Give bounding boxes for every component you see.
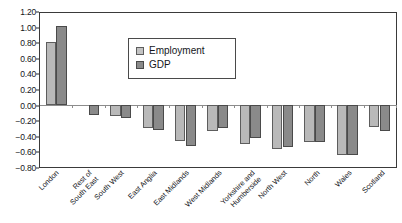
x-tick-mark — [396, 105, 397, 108]
bar-group — [137, 13, 169, 167]
bar-group — [299, 13, 331, 167]
bar-gdp — [347, 105, 357, 155]
y-tick-label: −0.40 — [2, 133, 36, 142]
bar-gdp — [186, 105, 196, 146]
bar-employment — [240, 105, 250, 144]
y-tick-label: −0.20 — [2, 117, 36, 126]
bar-gdp — [218, 105, 228, 128]
bar-gdp — [56, 26, 66, 105]
bar-employment — [304, 105, 314, 141]
bar-group — [40, 13, 72, 167]
y-tick-label: 0.60 — [2, 55, 36, 64]
bar-employment — [337, 105, 347, 154]
bar-group — [72, 13, 104, 167]
bar-employment — [272, 105, 282, 148]
x-tick-label: North — [303, 169, 322, 188]
legend-item: GDP — [136, 58, 228, 72]
bar-gdp — [121, 105, 131, 118]
bar-group — [169, 13, 201, 167]
plot-area — [39, 12, 397, 168]
x-tick-label: Scotland — [360, 169, 386, 195]
y-tick-label: 1.20 — [2, 8, 36, 17]
bar-group — [364, 13, 396, 167]
bar-gdp — [153, 105, 163, 130]
y-tick-label: −0.80 — [2, 164, 36, 173]
bar-employment — [369, 105, 379, 127]
x-axis: LondonRest ofSouth EastSouth WestEast An… — [39, 169, 397, 223]
y-axis: 1.201.000.800.600.400.200.00−0.20−0.40−0… — [0, 0, 36, 223]
bar-gdp — [315, 105, 325, 141]
x-tick-label: East Anglia — [127, 169, 159, 201]
bar-employment — [207, 105, 217, 130]
legend-swatch-employment-icon — [136, 47, 144, 55]
y-tick-label: 0.80 — [2, 39, 36, 48]
x-tick-label: Wales — [334, 169, 354, 189]
y-tick-label: 0.20 — [2, 86, 36, 95]
x-tick-label: Rest ofSouth East — [62, 169, 100, 207]
x-tick-label: London — [38, 169, 61, 192]
legend-label: GDP — [149, 60, 171, 70]
y-tick-label: −0.60 — [2, 148, 36, 157]
legend-swatch-gdp-icon — [136, 61, 144, 69]
bar-group — [105, 13, 137, 167]
y-tick-label: 1.00 — [2, 23, 36, 32]
bar-group — [202, 13, 234, 167]
legend-item: Employment — [136, 44, 228, 58]
bar-employment — [175, 105, 185, 140]
y-tick-label: 0.00 — [2, 101, 36, 110]
x-tick-label: Yorkshire andHumberside — [219, 169, 263, 213]
bar-groups — [40, 13, 396, 167]
bar-group — [234, 13, 266, 167]
bar-employment — [46, 42, 56, 105]
chart-legend: EmploymentGDP — [128, 38, 236, 79]
x-tick-label: South West — [93, 169, 126, 202]
bar-group — [267, 13, 299, 167]
x-tick-label: North West — [257, 169, 289, 201]
bar-gdp — [380, 105, 390, 130]
bar-employment — [143, 105, 153, 128]
bar-gdp — [283, 105, 293, 147]
bar-chart: 1.201.000.800.600.400.200.00−0.20−0.40−0… — [0, 0, 402, 223]
bar-gdp — [89, 105, 99, 114]
legend-label: Employment — [149, 46, 205, 56]
y-tick-label: 0.40 — [2, 70, 36, 79]
bar-group — [331, 13, 363, 167]
bar-employment — [110, 105, 120, 116]
bar-gdp — [250, 105, 260, 137]
